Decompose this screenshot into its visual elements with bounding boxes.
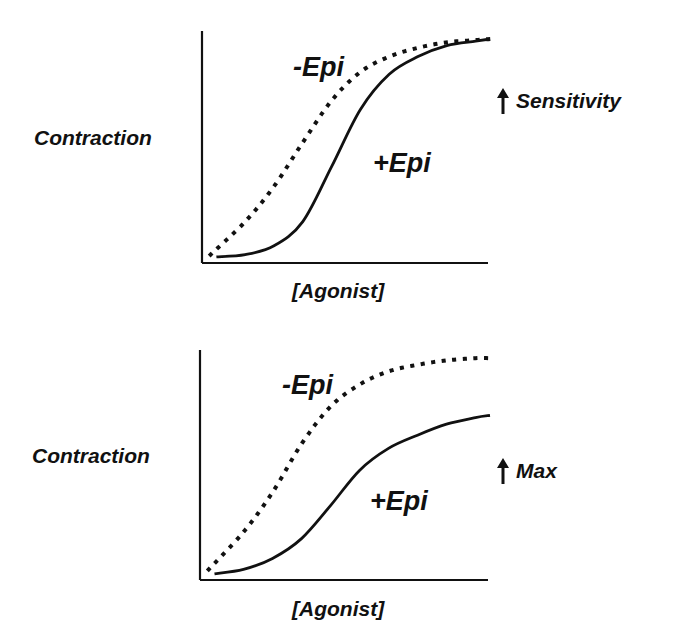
chart-bottom — [0, 0, 681, 639]
effect-label: Max — [516, 459, 557, 483]
x-axis-label: [Agonist] — [292, 597, 384, 621]
up-arrow-icon — [496, 458, 510, 484]
y-axis-label: Contraction — [32, 444, 150, 468]
curve-label-minus-epi: -Epi — [282, 370, 333, 401]
axes-bottom — [200, 350, 488, 580]
curve-label-plus-epi: +Epi — [370, 486, 428, 517]
effect-annotation: Max — [496, 458, 557, 484]
curve-plus-epi — [215, 415, 491, 573]
curve-minus-epi — [209, 358, 490, 569]
